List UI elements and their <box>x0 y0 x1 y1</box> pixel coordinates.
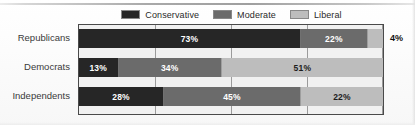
category-label-independents: Independents <box>12 86 70 105</box>
bar-value-label: 45% <box>223 92 241 102</box>
chart-canvas: Conservative Moderate Liberal Republican… <box>0 0 415 125</box>
legend-item-moderate[interactable]: Moderate <box>213 10 276 20</box>
scan-edge-shadow-bottom <box>0 122 415 125</box>
bar-segment-republicans-moderate[interactable]: 22% <box>301 29 368 48</box>
bar-rows: 73% 22% 4% 13% 34% 51% <box>79 25 383 114</box>
plot-area: 73% 22% 4% 13% 34% 51% <box>78 24 384 115</box>
scan-edge-line-top <box>0 3 415 5</box>
category-label-republicans: Republicans <box>18 28 70 47</box>
category-axis: Republicans Democrats Independents <box>0 24 75 115</box>
legend-label-moderate: Moderate <box>237 10 276 20</box>
category-label-democrats: Democrats <box>24 57 70 76</box>
bar-value-label: 73% <box>181 34 199 44</box>
bar-row-democrats: 13% 34% 51% <box>79 58 383 77</box>
bar-segment-independents-liberal[interactable]: 22% <box>301 87 383 106</box>
outside-value-label-republicans-liberal: 4% <box>390 33 403 43</box>
bar-row-republicans: 73% 22% 4% <box>79 29 383 48</box>
bar-value-label: 22% <box>333 92 351 102</box>
bar-value-label: 28% <box>112 92 130 102</box>
bar-segment-democrats-liberal[interactable]: 51% <box>222 58 383 77</box>
bar-segment-republicans-liberal[interactable]: 4% <box>368 29 383 48</box>
legend-swatch-liberal <box>290 10 309 19</box>
bar-value-label: 13% <box>89 63 107 73</box>
legend-swatch-moderate <box>213 10 232 19</box>
bar-segment-democrats-conservative[interactable]: 13% <box>79 58 119 77</box>
bar-segment-independents-moderate[interactable]: 45% <box>164 87 301 106</box>
bar-value-label: 51% <box>294 63 312 73</box>
legend-label-liberal: Liberal <box>314 10 342 20</box>
legend-label-conservative: Conservative <box>145 10 199 20</box>
legend-item-liberal[interactable]: Liberal <box>290 10 342 20</box>
legend-item-conservative[interactable]: Conservative <box>121 10 199 20</box>
bar-segment-independents-conservative[interactable]: 28% <box>79 87 164 106</box>
bar-row-independents: 28% 45% 22% <box>79 87 383 106</box>
chart-legend: Conservative Moderate Liberal <box>78 8 385 21</box>
legend-swatch-conservative <box>121 10 140 19</box>
bar-value-label: 22% <box>325 34 343 44</box>
bar-segment-republicans-conservative[interactable]: 73% <box>79 29 301 48</box>
bar-segment-democrats-moderate[interactable]: 34% <box>119 58 222 77</box>
bar-value-label: 34% <box>161 63 179 73</box>
